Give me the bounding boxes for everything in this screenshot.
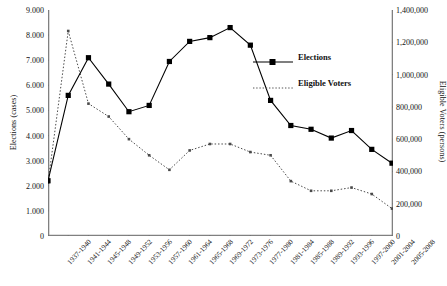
plot-svg bbox=[48, 10, 393, 236]
y-left-tick-1: 1.000 bbox=[26, 206, 44, 215]
y-left-tick-3: 3.000 bbox=[26, 156, 44, 165]
y-right-tick-2: 400,000 bbox=[396, 167, 422, 176]
y-left-tick-4: 4.000 bbox=[26, 131, 44, 140]
y-right-tick-7: 1,400,000 bbox=[396, 6, 428, 15]
y-right-tick-3: 600,000 bbox=[396, 135, 422, 144]
y-left-tick-2: 2.000 bbox=[26, 181, 44, 190]
chart-legend: Elections Eligible Voters bbox=[252, 52, 384, 104]
y-left-tick-5: 5.000 bbox=[26, 106, 44, 115]
y-axis-left-tick-labels: 01.0002.0003.0004.0005.0006.0007.0008.00… bbox=[8, 0, 44, 286]
legend-marker-elections-icon bbox=[252, 57, 294, 67]
y-left-tick-8: 8.000 bbox=[26, 31, 44, 40]
y-left-tick-9: 9.000 bbox=[26, 6, 44, 15]
y-left-tick-7: 7.000 bbox=[26, 56, 44, 65]
y-right-tick-6: 1,200,000 bbox=[396, 38, 428, 47]
y-left-tick-0: 0 bbox=[40, 232, 44, 241]
x-axis-tick-labels: 1937-19401941-19441945-19481949-19521953… bbox=[48, 238, 393, 286]
legend-label-eligible-voters: Eligible Voters bbox=[298, 78, 351, 88]
y-left-tick-6: 6.000 bbox=[26, 81, 44, 90]
y-right-tick-0: 0 bbox=[396, 232, 400, 241]
y-right-tick-5: 1,000,000 bbox=[396, 70, 428, 79]
legend-item-eligible-voters: Eligible Voters bbox=[252, 78, 384, 104]
legend-label-elections: Elections bbox=[298, 52, 331, 62]
legend-item-elections: Elections bbox=[252, 52, 384, 78]
y-right-tick-1: 200,000 bbox=[396, 199, 422, 208]
y-right-tick-4: 800,000 bbox=[396, 102, 422, 111]
legend-marker-eligible-voters-icon bbox=[252, 83, 294, 93]
plot-area bbox=[48, 10, 393, 236]
